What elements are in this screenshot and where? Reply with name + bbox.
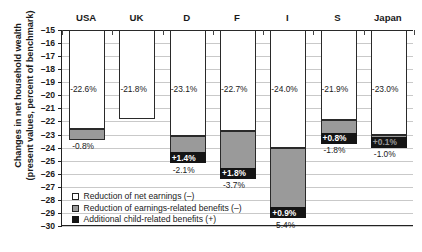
- legend-item-child-related-benefits: Additional child-related benefits (+): [72, 214, 242, 226]
- y-tick-label: –26: [29, 169, 55, 179]
- value-label-earnings-related-benefits: -1.8%: [324, 146, 346, 154]
- chart-container: Changes in net household wealth (present…: [0, 0, 422, 252]
- bar-segment-net-earnings: [119, 30, 155, 119]
- y-tick-label: –29: [29, 208, 55, 218]
- value-label-child-related-benefits: +0.9%: [272, 209, 296, 217]
- y-tick-label: –30: [29, 221, 55, 231]
- bar-segment-earnings-related-benefits: [69, 129, 105, 139]
- y-tick-label: –15: [29, 25, 55, 35]
- value-label-net-earnings: -23.1%: [171, 85, 198, 93]
- value-label-net-earnings: -22.6%: [70, 85, 97, 93]
- category-label-i: I: [286, 12, 289, 23]
- y-tick-label: –17: [29, 51, 55, 61]
- y-tick-label: –19: [29, 77, 55, 87]
- value-label-earnings-related-benefits: -5.4%: [273, 221, 295, 229]
- value-label-net-earnings: -23.0%: [372, 85, 399, 93]
- y-axis-title-line-1: Changes in net household wealth: [13, 0, 25, 204]
- legend-item-net-earnings: Reduction of net earnings (–): [72, 191, 242, 203]
- value-label-earnings-related-benefits: -3.7%: [223, 181, 245, 189]
- category-label-usa: USA: [76, 12, 96, 23]
- y-tick-label: –16: [29, 38, 55, 48]
- legend-label-child-related-benefits: Additional child-related benefits (+): [84, 214, 217, 226]
- value-label-net-earnings: -22.7%: [221, 85, 248, 93]
- bar-segment-net-earnings: [371, 30, 407, 135]
- y-tick-label: –23: [29, 130, 55, 140]
- category-label-f: F: [234, 12, 240, 23]
- value-label-earnings-related-benefits: -1.0%: [374, 150, 396, 158]
- y-tick-label: –22: [29, 116, 55, 126]
- bar-group-i: +0.9%-24.0%-5.4%: [270, 30, 306, 225]
- legend-swatch-white: [72, 193, 79, 200]
- bar-group-japan: +0.1%-23.0%-1.0%: [371, 30, 407, 225]
- bar-segment-net-earnings: [220, 30, 256, 131]
- y-tick-label: –27: [29, 182, 55, 192]
- chart-legend: Reduction of net earnings (–) Reduction …: [72, 191, 242, 226]
- legend-label-earnings-related-benefits: Reduction of earnings-related benefits (…: [84, 203, 242, 215]
- gridline: [62, 226, 413, 227]
- value-label-child-related-benefits: +0.8%: [323, 134, 347, 142]
- category-label-uk: UK: [129, 12, 143, 23]
- value-label-child-related-benefits: +1.8%: [222, 169, 246, 177]
- y-tick-mark: [58, 226, 62, 227]
- bar-segment-net-earnings: [69, 30, 105, 129]
- category-label-d: D: [183, 12, 190, 23]
- value-label-net-earnings: -24.0%: [271, 85, 298, 93]
- y-tick-label: –21: [29, 103, 55, 113]
- bar-group-s: +0.8%-21.9%-1.8%: [321, 30, 357, 225]
- legend-label-net-earnings: Reduction of net earnings (–): [84, 191, 195, 203]
- y-tick-label: –25: [29, 156, 55, 166]
- value-label-net-earnings: -21.9%: [322, 85, 349, 93]
- y-tick-label: –20: [29, 90, 55, 100]
- y-tick-label: –24: [29, 143, 55, 153]
- category-label-s: S: [334, 12, 340, 23]
- bar-segment-net-earnings: [170, 30, 206, 136]
- category-label-japan: Japan: [374, 12, 402, 23]
- value-label-child-related-benefits: +0.1%: [373, 138, 397, 146]
- y-tick-label: –18: [29, 64, 55, 74]
- legend-item-earnings-related-benefits: Reduction of earnings-related benefits (…: [72, 203, 242, 215]
- value-label-child-related-benefits: +1.4%: [172, 154, 196, 162]
- legend-swatch-black: [72, 216, 79, 223]
- y-tick-label: –28: [29, 195, 55, 205]
- value-label-earnings-related-benefits: -0.8%: [72, 142, 94, 150]
- bar-segment-net-earnings: [321, 30, 357, 120]
- x-axis-major-tick: [414, 30, 415, 35]
- legend-swatch-grey: [72, 205, 79, 212]
- value-label-net-earnings: -21.8%: [120, 85, 147, 93]
- value-label-earnings-related-benefits: -2.1%: [173, 166, 195, 174]
